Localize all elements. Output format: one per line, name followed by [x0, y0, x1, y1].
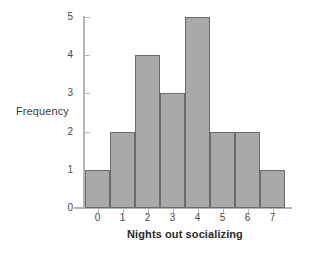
histogram-bar — [135, 55, 160, 208]
y-tick-label: 1 — [67, 163, 73, 176]
histogram-bar — [235, 132, 260, 208]
x-tick-label: 7 — [258, 212, 288, 223]
y-tick-label: 3 — [67, 86, 73, 99]
histogram-bar — [110, 132, 135, 208]
y-tick-label: 4 — [67, 48, 73, 61]
x-axis-title: Nights out socializing — [84, 228, 286, 240]
histogram-figure: Frequency 012345 01234567 Nights out soc… — [0, 0, 311, 256]
y-tick-label: 5 — [67, 10, 73, 23]
histogram-bar — [85, 170, 110, 208]
y-tick-mark — [85, 208, 90, 209]
histogram-bar — [260, 170, 285, 208]
y-axis-label: Frequency — [16, 105, 69, 117]
y-tick-label: 0 — [67, 201, 73, 214]
histogram-bar — [160, 93, 185, 208]
histogram-bar — [210, 132, 235, 208]
y-tick-label: 2 — [67, 125, 73, 138]
histogram-bar — [185, 17, 210, 208]
plot-area — [85, 17, 285, 208]
